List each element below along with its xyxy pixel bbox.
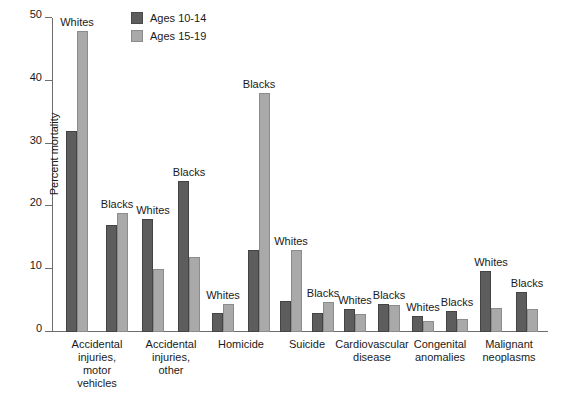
y-tick-mark — [45, 80, 52, 81]
bar-ages-15-19 — [491, 308, 502, 332]
bar-pair-label: Whites — [406, 301, 440, 313]
bar-ages-15-19 — [77, 31, 88, 332]
x-category-label-line: Malignant — [466, 338, 552, 351]
legend-item-ages-15-19: Ages 15-19 — [131, 28, 206, 44]
bar-ages-10-14 — [344, 309, 355, 332]
x-category-label-line: injuries, — [128, 351, 214, 364]
bar-pair-whites: Whites — [280, 18, 302, 332]
y-tick-label: 40 — [2, 72, 42, 83]
bar-ages-15-19 — [291, 250, 302, 332]
bar-ages-15-19 — [423, 321, 434, 332]
bar-ages-10-14 — [312, 313, 323, 332]
bar-pair-label: Whites — [60, 16, 94, 28]
bar-pair-blacks: Blacks — [446, 18, 468, 332]
bar-ages-10-14 — [378, 304, 389, 332]
bar-pair-label: Blacks — [101, 198, 133, 210]
plot-area: WhitesBlacksWhitesBlacksWhitesBlacksWhit… — [52, 18, 548, 332]
bar-pair-label: Blacks — [373, 289, 405, 301]
bar-pair-blacks: Blacks — [248, 18, 270, 332]
y-tick-mark — [45, 205, 52, 206]
bar-ages-15-19 — [355, 314, 366, 332]
x-category-label-line: vehicles — [52, 377, 142, 390]
bar-ages-10-14 — [178, 181, 189, 332]
y-tick-mark — [45, 143, 52, 144]
bar-ages-15-19 — [153, 269, 164, 332]
bar-ages-15-19 — [457, 319, 468, 332]
y-tick-label: 20 — [2, 197, 42, 208]
bar-pair-blacks: Blacks — [178, 18, 200, 332]
legend-label-ages-15-19: Ages 15-19 — [150, 30, 206, 42]
legend-item-ages-10-14: Ages 10-14 — [131, 10, 206, 26]
bar-ages-10-14 — [412, 316, 423, 332]
legend-swatch-light-icon — [131, 30, 143, 42]
bar-group: WhitesBlacks — [212, 18, 270, 332]
bar-ages-15-19 — [259, 93, 270, 332]
bar-group: WhitesBlacks — [412, 18, 468, 332]
bar-ages-10-14 — [446, 311, 457, 332]
bar-pair-whites: Whites — [480, 18, 502, 332]
bar-pair-blacks: Blacks — [312, 18, 334, 332]
bar-pair-label: Whites — [206, 289, 240, 301]
bar-pair-label: Blacks — [173, 166, 205, 178]
bar-ages-10-14 — [106, 225, 117, 332]
bar-ages-15-19 — [117, 213, 128, 332]
bar-ages-15-19 — [189, 257, 200, 332]
chart-legend: Ages 10-14 Ages 15-19 — [131, 10, 206, 46]
bar-pair-label: Whites — [474, 256, 508, 268]
x-category-label-line: neoplasms — [466, 351, 552, 364]
legend-swatch-dark-icon — [131, 12, 143, 24]
bar-pair-blacks: Blacks — [378, 18, 400, 332]
bar-group: WhitesBlacks — [66, 18, 128, 332]
bar-ages-10-14 — [516, 292, 527, 332]
bar-ages-15-19 — [389, 305, 400, 332]
y-tick-mark — [45, 17, 52, 18]
bar-pair-label: Whites — [136, 204, 170, 216]
legend-label-ages-10-14: Ages 10-14 — [150, 12, 206, 24]
bar-group: WhitesBlacks — [280, 18, 334, 332]
bar-group: WhitesBlacks — [344, 18, 400, 332]
bar-pair-blacks: Blacks — [516, 18, 538, 332]
bar-ages-15-19 — [223, 304, 234, 332]
bar-ages-10-14 — [66, 131, 77, 332]
bar-ages-10-14 — [212, 313, 223, 332]
y-tick-label: 0 — [2, 323, 42, 334]
bar-group: WhitesBlacks — [142, 18, 200, 332]
x-category-label: Malignantneoplasms — [466, 338, 552, 364]
bar-pair-label: Blacks — [441, 296, 473, 308]
y-tick-label: 30 — [2, 135, 42, 146]
y-tick-label: 50 — [2, 9, 42, 20]
bar-ages-15-19 — [527, 309, 538, 332]
y-tick-mark — [45, 268, 52, 269]
bar-pair-label: Blacks — [307, 287, 339, 299]
bar-pair-label: Whites — [338, 294, 372, 306]
x-category-label-line: other — [128, 364, 214, 377]
bar-pair-label: Whites — [274, 235, 308, 247]
bar-pair-label: Blacks — [511, 277, 543, 289]
bar-pair-whites: Whites — [66, 18, 88, 332]
bar-pair-blacks: Blacks — [106, 18, 128, 332]
bar-pair-whites: Whites — [142, 18, 164, 332]
bar-pair-whites: Whites — [344, 18, 366, 332]
bar-ages-10-14 — [280, 301, 291, 332]
y-tick-mark — [45, 331, 52, 332]
bar-ages-10-14 — [480, 271, 491, 332]
bar-group: WhitesBlacks — [480, 18, 538, 332]
bar-ages-10-14 — [142, 219, 153, 332]
bar-pair-label: Blacks — [243, 78, 275, 90]
bar-pair-whites: Whites — [212, 18, 234, 332]
bar-chart: Percent mortality 01020304050 WhitesBlac… — [0, 0, 568, 399]
bar-ages-10-14 — [248, 250, 259, 332]
y-tick-label: 10 — [2, 260, 42, 271]
bar-ages-15-19 — [323, 302, 334, 332]
bar-pair-whites: Whites — [412, 18, 434, 332]
